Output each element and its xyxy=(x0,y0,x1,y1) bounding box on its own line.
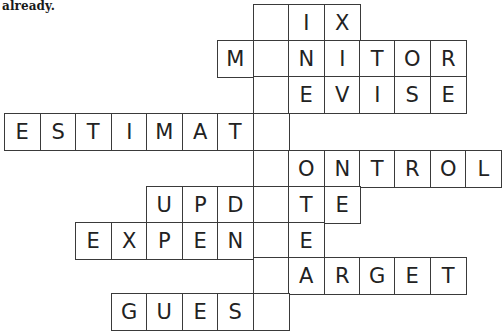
letter-cell: V xyxy=(324,76,361,114)
key-column-cell[interactable] xyxy=(253,222,290,260)
letter-cell: I xyxy=(324,40,361,78)
letter-cell: D xyxy=(217,186,254,224)
key-column-cell[interactable] xyxy=(253,40,290,78)
letter-cell: P xyxy=(182,186,219,224)
letter-cell: T xyxy=(217,113,254,151)
letter-cell: E xyxy=(394,257,431,295)
letter-cell: S xyxy=(40,113,77,151)
letter-cell: S xyxy=(394,76,431,114)
letter-cell: R xyxy=(430,40,467,78)
letter-cell: T xyxy=(359,150,396,188)
letter-cell: G xyxy=(359,257,396,295)
letter-cell: S xyxy=(217,293,254,331)
letter-cell: O xyxy=(288,150,325,188)
letter-cell: X xyxy=(111,222,148,260)
letter-cell: O xyxy=(430,150,467,188)
letter-cell: M xyxy=(217,40,254,78)
key-column-cell[interactable] xyxy=(253,4,290,42)
letter-cell: E xyxy=(324,186,361,224)
letter-cell: T xyxy=(288,186,325,224)
letter-cell: N xyxy=(324,150,361,188)
key-column-cell[interactable] xyxy=(253,293,290,331)
key-column-cell[interactable] xyxy=(253,150,290,188)
letter-cell: R xyxy=(394,150,431,188)
letter-cell: O xyxy=(394,40,431,78)
letter-cell: M xyxy=(146,113,183,151)
letter-cell: E xyxy=(430,76,467,114)
key-column-cell[interactable] xyxy=(253,76,290,114)
letter-cell: R xyxy=(324,257,361,295)
letter-cell: T xyxy=(75,113,112,151)
letter-cell: A xyxy=(288,257,325,295)
letter-cell: E xyxy=(75,222,112,260)
key-column-cell[interactable] xyxy=(253,186,290,224)
letter-cell: E xyxy=(182,222,219,260)
letter-cell: E xyxy=(288,222,325,260)
letter-cell: X xyxy=(324,4,361,42)
letter-cell: A xyxy=(182,113,219,151)
letter-cell: G xyxy=(111,293,148,331)
letter-cell: I xyxy=(111,113,148,151)
letter-cell: N xyxy=(217,222,254,260)
letter-cell: E xyxy=(288,76,325,114)
letter-cell: L xyxy=(465,150,502,188)
letter-cell: N xyxy=(288,40,325,78)
letter-cell: T xyxy=(430,257,467,295)
letter-cell: U xyxy=(146,293,183,331)
letter-cell: E xyxy=(182,293,219,331)
letter-cell: T xyxy=(359,40,396,78)
letter-cell: I xyxy=(359,76,396,114)
letter-cell: U xyxy=(146,186,183,224)
key-column-cell[interactable] xyxy=(253,113,290,151)
key-column-cell[interactable] xyxy=(253,257,290,295)
letter-cell: E xyxy=(4,113,41,151)
letter-cell: I xyxy=(288,4,325,42)
letter-cell: P xyxy=(146,222,183,260)
